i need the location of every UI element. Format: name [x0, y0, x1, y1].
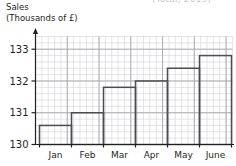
x-tick-label-apr: Apr: [144, 150, 160, 160]
x-tick-label-june: June: [205, 150, 226, 160]
y-tick-label-130: 130: [9, 139, 28, 150]
x-tick-label-may: May: [174, 150, 193, 160]
x-tick-label-jan: Jan: [48, 150, 63, 160]
y-axis-arrow-icon: [33, 28, 38, 34]
x-tick-label-mar: Mar: [111, 150, 128, 160]
plot-svg: 130131132133JanFebMarAprMayJune: [0, 0, 236, 166]
y-tick-label-131: 131: [9, 107, 28, 118]
grid-minor: [36, 37, 233, 145]
x-tick-label-feb: Feb: [80, 150, 96, 160]
sales-bar-chart: (Total, 2019) Sales (Thousands of £) 130…: [0, 0, 236, 166]
grid-major: [36, 37, 233, 145]
y-tick-label-133: 133: [9, 44, 28, 55]
bar-jan: [40, 125, 72, 144]
plot-area: 130131132133JanFebMarAprMayJune: [0, 0, 236, 166]
y-tick-label-132: 132: [9, 76, 28, 87]
